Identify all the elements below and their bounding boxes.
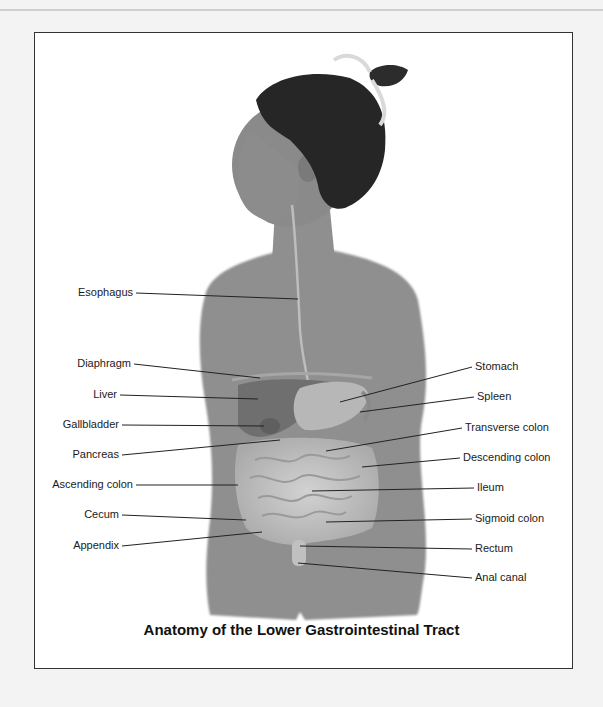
anatomy-illustration [0, 0, 603, 707]
label-stomach: Stomach [475, 360, 518, 373]
label-pancreas: Pancreas [73, 448, 119, 461]
label-diaphragm: Diaphragm [77, 357, 131, 370]
label-gallbladder: Gallbladder [63, 418, 119, 431]
label-anal-canal: Anal canal [475, 571, 526, 584]
label-rectum: Rectum [475, 542, 513, 555]
label-cecum: Cecum [84, 508, 119, 521]
label-ascending-colon: Ascending colon [52, 478, 133, 491]
label-ileum: Ileum [477, 481, 504, 494]
label-appendix: Appendix [73, 539, 119, 552]
figure-title: Anatomy of the Lower Gastrointestinal Tr… [0, 621, 603, 638]
label-transverse-colon: Transverse colon [465, 421, 549, 434]
label-esophagus: Esophagus [78, 286, 133, 299]
label-liver: Liver [93, 388, 117, 401]
label-sigmoid-colon: Sigmoid colon [475, 512, 544, 525]
label-descending-colon: Descending colon [463, 451, 550, 464]
label-spleen: Spleen [477, 390, 511, 403]
